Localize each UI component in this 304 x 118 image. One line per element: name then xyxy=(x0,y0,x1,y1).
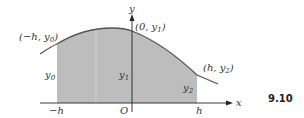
x-axis-arrow-icon xyxy=(226,101,233,106)
ordinate-label-y0: y0 xyxy=(44,69,56,82)
y-axis-label: y xyxy=(128,3,135,14)
figure-number: 9.10 xyxy=(268,93,293,104)
x-axis-label: x xyxy=(236,97,242,108)
point-label-middle: (0, y1) xyxy=(135,21,166,34)
tick-label-neg-h: −h xyxy=(49,105,64,116)
point-label-right: (h, y2) xyxy=(203,62,234,75)
y-axis-arrow-icon xyxy=(130,14,135,21)
simpson-rule-diagram: x y O −h h (−h, y0) (0, y1) (h, y2) y0 y… xyxy=(0,0,304,118)
shaded-area xyxy=(57,28,197,103)
tick-label-pos-h: h xyxy=(196,105,202,116)
point-label-left: (−h, y0) xyxy=(19,31,58,44)
origin-label: O xyxy=(120,105,128,116)
